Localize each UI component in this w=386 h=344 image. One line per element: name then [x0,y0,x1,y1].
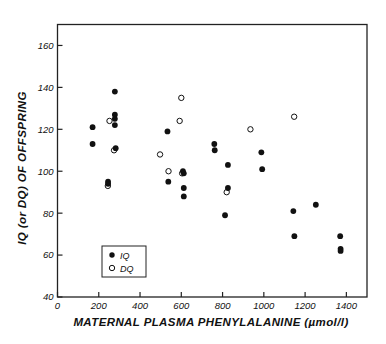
x-tick-label: 200 [90,300,108,311]
x-tick-label: 0 [55,300,61,311]
y-tick-label: 120 [38,124,55,135]
data-point-iq [290,208,296,214]
y-tick-label: 100 [38,166,55,177]
data-point-iq [222,212,228,218]
data-point-iq [90,124,96,130]
data-point-iq [112,89,118,95]
x-tick-label: 600 [173,300,190,311]
y-tick-label: 40 [43,291,54,302]
data-point-iq [112,122,118,128]
x-tick-label: 800 [215,300,232,311]
data-point-iq [211,141,217,147]
data-point-iq [338,248,344,254]
x-tick-label: 1000 [253,300,275,311]
data-point-iq [165,129,171,135]
y-tick-label: 160 [38,40,55,51]
y-tick-label: 140 [38,82,55,93]
data-point-iq [212,147,218,153]
data-point-iq [90,141,96,147]
data-point-iq [181,193,187,199]
scatter-plot-figure: 0200400600800100012001400 40608010012014… [0,0,386,344]
data-point-iq [165,179,171,185]
data-point-iq [313,202,319,208]
y-axis-title: IQ (or DQ) OF OFFSPRING [16,91,28,245]
y-tick-label: 60 [43,249,54,260]
data-point-iq [258,149,264,155]
legend-marker-iq-icon [109,252,114,257]
legend-label-dq: DQ [120,264,134,274]
data-point-iq [259,166,265,172]
data-point-iq [112,116,118,122]
x-tick-label: 400 [132,300,149,311]
data-point-iq [181,185,187,191]
y-tick-label: 80 [43,208,54,219]
x-tick-label: 1400 [336,300,358,311]
data-point-iq [291,233,297,239]
data-point-iq [337,233,343,239]
x-axis-title: MATERNAL PLASMA PHENYLALANINE (µmol/l) [73,316,348,328]
legend-label-iq: IQ [120,251,130,261]
x-tick-label: 1200 [295,300,317,311]
chart-legend: IQ DQ [102,246,146,277]
data-point-iq [225,162,231,168]
